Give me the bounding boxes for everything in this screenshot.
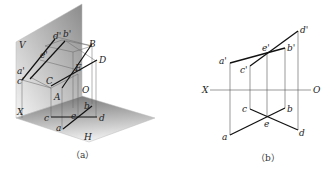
label-X-b: X (201, 85, 209, 95)
label-e-b: e (264, 119, 269, 129)
label-X: X (16, 107, 24, 117)
label-e-prime: e' (40, 50, 48, 60)
label-c-prime: c' (17, 76, 25, 86)
label-c: c (44, 113, 49, 123)
label-c-b: c (242, 104, 247, 114)
figure-b: X O a' c' e' b' d' c b e a d （b） (201, 25, 321, 163)
label-d: d (99, 113, 105, 123)
label-d-prime-b: d' (300, 25, 308, 35)
label-C: C (46, 76, 53, 86)
label-O: O (82, 85, 90, 95)
caption-b: （b） (256, 153, 280, 163)
caption-a: （a） (71, 150, 94, 160)
label-b: b (84, 101, 90, 111)
label-d-b: d (299, 128, 305, 138)
label-c-prime-b: c' (240, 65, 248, 75)
label-H: H (83, 132, 92, 142)
label-A: A (53, 92, 61, 102)
label-E: E (74, 63, 82, 73)
label-e: e (71, 111, 76, 121)
label-b-prime: b' (63, 29, 71, 39)
label-b-prime-b: b' (287, 43, 295, 53)
label-e-prime-b: e' (262, 43, 270, 53)
label-a: a (56, 123, 61, 133)
label-D: D (98, 55, 106, 65)
label-a-prime-b: a' (219, 56, 227, 66)
label-a-b: a (222, 132, 227, 142)
label-a-prime: a' (17, 66, 25, 76)
diagram-canvas: V d' b' e' a' c' B D E C O A X b c e d a… (0, 0, 335, 176)
label-O-b: O (313, 85, 321, 95)
figure-a: V d' b' e' a' c' B D E C O A X b c e d a… (16, 4, 155, 160)
label-b-b: b (287, 104, 293, 114)
label-B: B (88, 39, 96, 49)
label-d-prime: d' (53, 31, 61, 41)
